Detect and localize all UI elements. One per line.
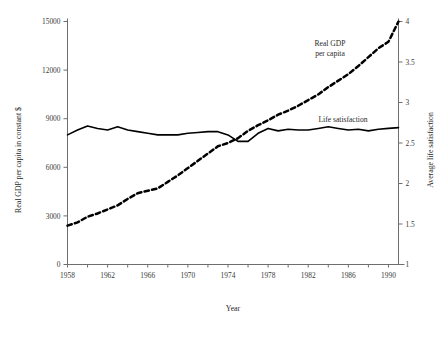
x-axis-title-text: Year	[226, 304, 241, 313]
annotation-real-gdp-per-capita: Real GDP per capita	[314, 39, 345, 58]
annotation-life-satisfaction-text: Life satisfaction	[318, 115, 367, 124]
y-axis-right-tick-label: 2	[406, 179, 410, 188]
x-axis-tick-label: 1974	[221, 271, 236, 280]
annotation-life-satisfaction: Life satisfaction	[318, 115, 367, 124]
chart-tick-labels: 0300060009000120001500011.522.533.541958…	[42, 17, 415, 279]
y-axis-left-tick-label: 15000	[42, 17, 61, 26]
y-axis-right-tick-label: 1.5	[406, 220, 416, 229]
y-axis-right-tick-label: 3.5	[406, 58, 416, 67]
y-axis-left-tick-label: 9000	[46, 114, 61, 123]
y-axis-title-right: Average life satisfaction	[426, 112, 435, 188]
y-axis-title-left: Real GDP per capita in constant $	[14, 107, 23, 213]
x-axis-tick-label: 1982	[301, 271, 316, 280]
y-axis-right-tick-label: 1	[406, 260, 410, 269]
y-axis-title-right-text: Average life satisfaction	[426, 112, 435, 188]
y-axis-right-tick-label: 3	[406, 98, 410, 107]
annotation-real-gdp-line1: Real GDP	[314, 39, 345, 48]
y-axis-left-tick-label: 0	[57, 260, 61, 269]
y-axis-left-tick-label: 3000	[46, 212, 61, 221]
y-axis-title-left-text: Real GDP per capita in constant $	[14, 107, 23, 213]
chart-tick-marks	[64, 22, 403, 268]
x-axis-title: Year	[226, 304, 241, 313]
x-axis-tick-label: 1966	[140, 271, 155, 280]
x-axis-tick-label: 1978	[261, 271, 276, 280]
x-axis-tick-label: 1962	[100, 271, 115, 280]
series-line-solid	[68, 126, 399, 141]
y-axis-left-tick-label: 6000	[46, 163, 61, 172]
annotation-real-gdp-line2: per capita	[315, 49, 345, 58]
y-axis-left-tick-label: 12000	[42, 66, 61, 75]
x-axis-tick-label: 1958	[60, 271, 75, 280]
y-axis-right-tick-label: 2.5	[406, 139, 416, 148]
y-axis-right-tick-label: 4	[406, 17, 410, 26]
x-axis-tick-label: 1970	[180, 271, 195, 280]
x-axis-tick-label: 1986	[341, 271, 356, 280]
chart-axes	[68, 19, 405, 265]
chart-container: 0300060009000120001500011.522.533.541958…	[0, 0, 448, 338]
dual-axis-line-chart: 0300060009000120001500011.522.533.541958…	[0, 0, 448, 338]
x-axis-tick-label: 1990	[381, 271, 396, 280]
